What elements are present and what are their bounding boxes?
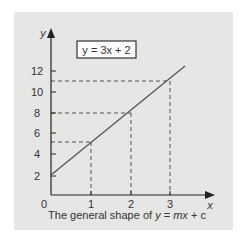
y-tick-12: 12 (31, 65, 43, 77)
caption: The general shape of y = mx + c (48, 209, 206, 221)
line-graph: 2 4 6 8 10 12 0 1 2 3 x y y = 3x + 2 The… (0, 0, 241, 234)
axes (51, 36, 208, 195)
y-axis-arrow-icon (47, 28, 55, 38)
y-tick-8: 8 (34, 107, 40, 119)
y-axis-label: y (39, 27, 47, 39)
origin-label: 0 (41, 198, 47, 210)
x-axis-label: x (206, 199, 213, 211)
y-tick-10: 10 (31, 86, 43, 98)
y-tick-4: 4 (34, 148, 40, 160)
guide-lines (51, 81, 170, 195)
plot-line (51, 66, 185, 175)
y-tick-2: 2 (34, 170, 40, 182)
x-axis-arrow-icon (205, 191, 215, 199)
y-tick-6: 6 (34, 127, 40, 139)
equation-text: y = 3x + 2 (82, 44, 130, 56)
ticks (51, 71, 170, 195)
